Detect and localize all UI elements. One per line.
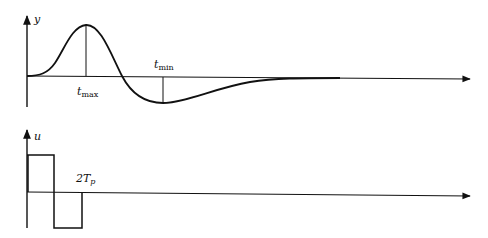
- bottom-panel: u 2Tp: [27, 130, 470, 228]
- response-diagram: y tmax tmin u 2Tp: [0, 0, 488, 238]
- time-axis-bottom: [27, 192, 470, 196]
- top-panel: y tmax tmin: [27, 13, 470, 107]
- t-min-label: tmin: [154, 58, 174, 72]
- t-max-label: tmax: [77, 85, 99, 99]
- u-axis-label: u: [34, 130, 41, 143]
- response-curve: [27, 25, 340, 103]
- time-axis-top: [27, 76, 470, 79]
- two-tp-label: 2Tp: [75, 172, 95, 186]
- y-axis-label: y: [33, 13, 41, 26]
